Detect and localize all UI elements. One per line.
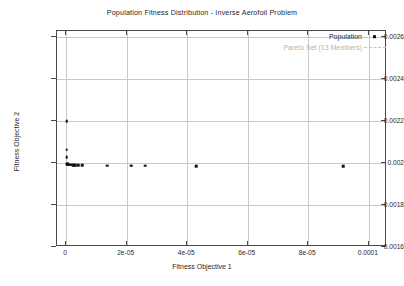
- scatter-point: [81, 164, 84, 167]
- x-axis-tick-label: 0.0001: [345, 249, 391, 256]
- y-axis-tick-label: 0.0018: [356, 201, 404, 208]
- plot-area: [56, 30, 386, 246]
- gridline-vertical: [127, 31, 128, 245]
- legend-marker-population-icon: [364, 33, 386, 40]
- gridline-horizontal: [57, 205, 385, 206]
- gridline-vertical: [66, 31, 67, 245]
- y-axis-tick: [51, 204, 56, 205]
- y-axis-tick: [51, 36, 56, 37]
- y-axis-tick: [51, 246, 56, 247]
- x-axis-tick: [368, 241, 369, 246]
- legend-item-pareto-set: Pareto Set (13 Members): [236, 42, 386, 53]
- gridline-vertical: [369, 31, 370, 245]
- x-axis-tick-label: 4e-05: [163, 249, 209, 256]
- x-axis-tick: [65, 241, 66, 246]
- x-axis-tick-label: 0: [42, 249, 88, 256]
- scatter-point: [130, 165, 133, 168]
- gridline-horizontal: [57, 79, 385, 80]
- x-axis-tick: [186, 241, 187, 246]
- gridline-vertical: [187, 31, 188, 245]
- x-axis-label: Fitness Objective 1: [0, 263, 404, 270]
- scatter-point: [65, 156, 68, 159]
- x-axis-tick-label: 2e-05: [103, 249, 149, 256]
- page-title: Population Fitness Distribution - Invers…: [0, 8, 404, 17]
- chart-legend: Population Pareto Set (13 Members): [236, 31, 386, 53]
- y-axis-tick-label: 0.0024: [356, 75, 404, 82]
- legend-label-pareto-set: Pareto Set (13 Members): [283, 42, 362, 53]
- scatter-point: [77, 164, 80, 167]
- gridline-horizontal: [57, 121, 385, 122]
- y-axis-tick-label: 0.0022: [356, 117, 404, 124]
- y-axis-tick: [51, 78, 56, 79]
- scatter-point: [144, 165, 147, 168]
- y-axis-label: Fitness Objective 2: [13, 82, 20, 202]
- legend-label-population: Population: [329, 31, 362, 42]
- scatter-point: [65, 149, 68, 152]
- x-axis-tick: [247, 241, 248, 246]
- legend-marker-pareto-set-icon: [364, 44, 386, 51]
- y-axis-tick: [51, 120, 56, 121]
- gridline-vertical: [308, 31, 309, 245]
- x-axis-tick: [307, 241, 308, 246]
- x-axis-tick: [126, 241, 127, 246]
- x-axis-tick-top: [65, 30, 66, 35]
- y-axis-tick-label: 0.002: [356, 159, 404, 166]
- x-axis-tick-label: 6e-05: [224, 249, 270, 256]
- gridline-vertical: [248, 31, 249, 245]
- legend-item-population: Population: [236, 31, 386, 42]
- x-axis-tick-top: [126, 30, 127, 35]
- x-axis-tick-label: 8e-05: [284, 249, 330, 256]
- scatter-point: [106, 164, 109, 167]
- x-axis-tick-top: [186, 30, 187, 35]
- scatter-point: [342, 165, 345, 168]
- y-axis-tick: [51, 162, 56, 163]
- scatter-point: [65, 120, 68, 123]
- scatter-point: [195, 165, 198, 168]
- chart-figure: Population Fitness Distribution - Invers…: [0, 0, 404, 286]
